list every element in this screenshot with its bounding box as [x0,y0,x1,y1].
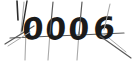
captcha-char-2: 0 [68,11,90,47]
captcha-image: 0006 0006 [0,0,134,62]
captcha-character-layer: 0006 [22,9,116,47]
captcha-char-1: 0 [45,11,67,47]
noise-line-corner-stroke-top-left [17,1,18,20]
captcha-canvas: 0006 [0,0,134,62]
